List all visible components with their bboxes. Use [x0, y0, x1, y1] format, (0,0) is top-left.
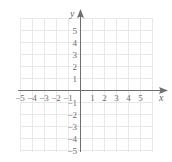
x-tick-label-neg4: −4 [26, 94, 38, 103]
x-tick-label-neg2: −2 [50, 94, 62, 103]
y-tick-label-neg1: −1 [66, 99, 77, 108]
x-tick-label-3: 3 [111, 94, 122, 103]
y-tick-label-neg4: −4 [66, 135, 77, 144]
x-tick-label-neg5: −5 [14, 94, 26, 103]
x-tick-label-neg3: −3 [38, 94, 50, 103]
y-axis-name-label: y [70, 9, 74, 19]
coordinate-grid-svg [0, 0, 172, 162]
x-tick-label-2: 2 [99, 94, 110, 103]
y-tick-label-1: 1 [68, 75, 77, 84]
y-tick-label-4: 4 [68, 39, 77, 48]
y-tick-label-neg2: −2 [66, 111, 77, 120]
y-tick-label-neg3: −3 [66, 123, 77, 132]
grid-lines [20, 18, 153, 152]
x-tick-label-4: 4 [123, 94, 134, 103]
x-tick-label-1: 1 [87, 94, 98, 103]
x-tick-label-5: 5 [135, 94, 146, 103]
y-tick-label-5: 5 [68, 27, 77, 36]
x-axis-name-label: x [159, 93, 163, 103]
y-tick-label-neg5: −5 [66, 147, 77, 156]
coordinate-plane-figure: −5 −4 −3 −2 −1 1 2 3 4 5 5 4 3 2 1 −1 −2… [0, 0, 172, 162]
y-tick-label-2: 2 [68, 63, 77, 72]
y-tick-label-3: 3 [68, 51, 77, 60]
